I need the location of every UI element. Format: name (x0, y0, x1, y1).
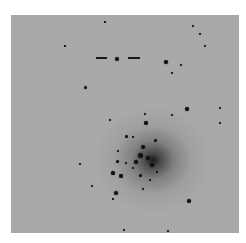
star (199, 33, 201, 35)
star (139, 174, 142, 177)
star (111, 171, 114, 174)
star (109, 119, 111, 121)
star (119, 174, 123, 178)
star (171, 72, 173, 74)
star (64, 45, 66, 47)
marker-tick (128, 57, 140, 59)
star (84, 86, 87, 89)
star (79, 163, 82, 166)
star (219, 107, 222, 110)
star (167, 230, 169, 232)
star (104, 21, 106, 23)
star (219, 122, 221, 124)
star (125, 135, 128, 138)
star (192, 25, 194, 27)
star (91, 185, 94, 188)
star (138, 153, 143, 158)
star (116, 160, 119, 163)
star (164, 60, 168, 64)
star (150, 163, 153, 166)
star (185, 107, 189, 111)
star (115, 57, 119, 61)
star (134, 160, 138, 164)
star (180, 64, 182, 66)
marker-tick (96, 57, 107, 59)
star (154, 139, 157, 142)
star (144, 121, 147, 124)
star (171, 114, 173, 116)
star (187, 199, 191, 203)
star (123, 229, 125, 231)
astronomical-image (11, 15, 239, 233)
star (204, 45, 206, 47)
